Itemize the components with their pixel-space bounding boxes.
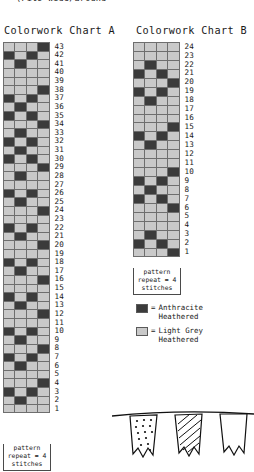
chart-row: 14 — [133, 131, 194, 140]
row-number: 25 — [55, 198, 64, 206]
cell-anthracite — [168, 79, 179, 87]
chart-row: 39 — [3, 77, 64, 86]
cell-light-grey — [157, 97, 168, 105]
chart-row-cells — [3, 335, 50, 344]
cell-light-grey — [168, 213, 179, 221]
row-number: 12 — [55, 310, 64, 318]
cell-light-grey — [38, 224, 49, 232]
cell-light-grey — [27, 405, 38, 412]
chart-row: 18 — [3, 258, 64, 267]
cell-light-grey — [15, 95, 26, 103]
row-number: 5 — [185, 212, 190, 220]
cell-light-grey — [145, 168, 156, 176]
chart-row-cells — [133, 167, 180, 176]
row-number: 11 — [55, 319, 64, 327]
cell-light-grey — [15, 86, 26, 94]
cell-light-grey — [168, 195, 179, 203]
cell-light-grey — [157, 79, 168, 87]
cell-anthracite — [4, 95, 15, 103]
chart-row-cells — [3, 284, 50, 293]
row-number: 13 — [185, 141, 194, 149]
cell-light-grey — [168, 159, 179, 167]
cell-anthracite — [27, 52, 38, 60]
chart-row-cells — [3, 163, 50, 172]
cell-anthracite — [15, 60, 26, 68]
chart-row-cells — [133, 69, 180, 78]
cell-anthracite — [134, 70, 145, 78]
flag-plain — [220, 414, 247, 455]
cell-anthracite — [157, 195, 168, 203]
cell-light-grey — [168, 61, 179, 69]
cell-light-grey — [4, 345, 15, 353]
cell-light-grey — [4, 362, 15, 370]
cell-light-grey — [27, 379, 38, 387]
cell-light-grey — [27, 302, 38, 310]
row-number: 39 — [55, 77, 64, 85]
cell-light-grey — [27, 362, 38, 370]
cell-light-grey — [4, 103, 15, 111]
row-number: 7 — [185, 195, 190, 203]
row-number: 8 — [55, 344, 60, 352]
cell-light-grey — [27, 103, 38, 111]
chart-row: 31 — [3, 146, 64, 155]
cell-anthracite — [134, 240, 145, 248]
row-number: 3 — [55, 388, 60, 396]
row-number: 30 — [55, 155, 64, 163]
cell-anthracite — [145, 141, 156, 149]
cell-light-grey — [15, 379, 26, 387]
cell-light-grey — [4, 198, 15, 206]
row-number: 31 — [55, 146, 64, 154]
chart-row-cells — [133, 149, 180, 158]
chart-row-cells — [3, 249, 50, 258]
cell-light-grey — [27, 60, 38, 68]
cell-light-grey — [27, 86, 38, 94]
cell-anthracite — [38, 121, 49, 129]
flag-dotted — [130, 415, 157, 457]
cell-light-grey — [38, 78, 49, 86]
chart-row: 3 — [133, 230, 194, 239]
row-number: 17 — [55, 267, 64, 275]
cell-light-grey — [168, 222, 179, 230]
row-number: 22 — [55, 224, 64, 232]
cell-light-grey — [15, 345, 26, 353]
cell-light-grey — [38, 138, 49, 146]
cell-light-grey — [145, 177, 156, 185]
row-number: 14 — [55, 293, 64, 301]
cell-anthracite — [168, 249, 179, 256]
row-number: 19 — [185, 87, 194, 95]
cell-light-grey — [38, 216, 49, 224]
cell-light-grey — [38, 371, 49, 379]
cell-light-grey — [168, 88, 179, 96]
row-number: 2 — [55, 396, 60, 404]
cell-light-grey — [145, 195, 156, 203]
cell-anthracite — [157, 177, 168, 185]
row-number: 6 — [185, 204, 190, 212]
chart-row-cells — [3, 137, 50, 146]
chart-row: 15 — [3, 284, 64, 293]
legend-item: =Light Grey Heathered — [136, 326, 203, 344]
cell-anthracite — [15, 362, 26, 370]
chart-row-cells — [3, 327, 50, 336]
cell-light-grey — [27, 121, 38, 129]
chart-row-cells — [133, 239, 180, 248]
cell-light-grey — [15, 78, 26, 86]
cell-anthracite — [15, 233, 26, 241]
row-number: 24 — [55, 206, 64, 214]
chart-row: 36 — [3, 102, 64, 111]
cell-anthracite — [38, 345, 49, 353]
cell-anthracite — [145, 186, 156, 194]
chart-a-title: Colorwork Chart A — [4, 25, 115, 36]
row-number: 21 — [55, 232, 64, 240]
chart-row: 5 — [133, 212, 194, 221]
cell-light-grey — [27, 310, 38, 318]
cell-light-grey — [38, 388, 49, 396]
chart-row-cells — [3, 51, 50, 60]
cell-light-grey — [27, 78, 38, 86]
cell-anthracite — [27, 112, 38, 120]
chart-row-cells — [3, 94, 50, 103]
cell-light-grey — [38, 52, 49, 60]
chart-row: 9 — [133, 176, 194, 185]
cell-light-grey — [15, 224, 26, 232]
chart-row-cells — [3, 223, 50, 232]
cell-light-grey — [15, 354, 26, 362]
